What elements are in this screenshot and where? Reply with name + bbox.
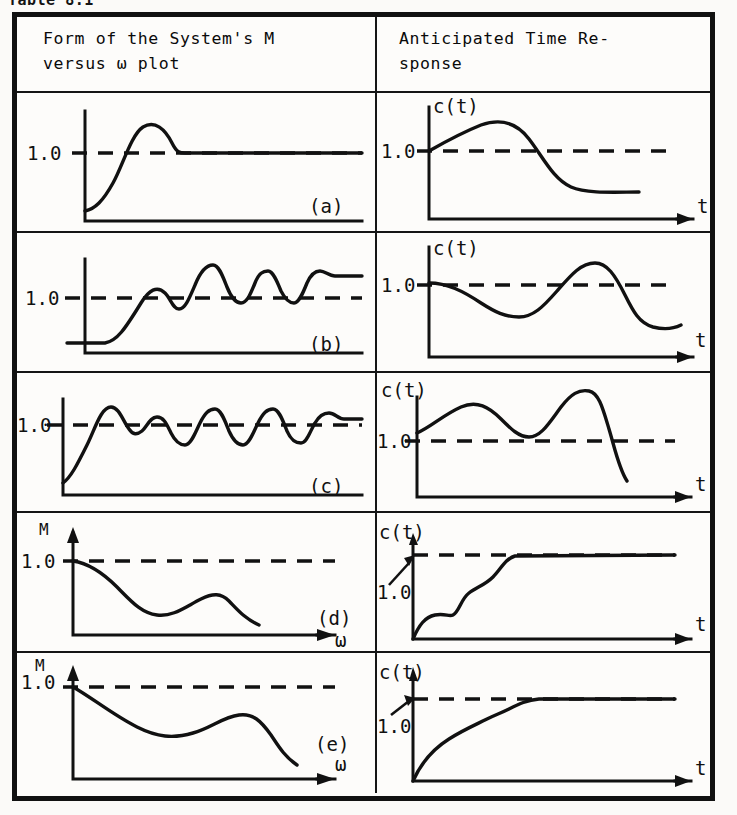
axis-label-a-left-y: 1.0 — [27, 142, 61, 164]
table-row: M 1.0 ω (d) c(t) — [17, 513, 710, 653]
table-row: 1.0 (c) c(t) 1.0 t — [17, 373, 710, 513]
curve-a-right — [429, 122, 639, 192]
axes-d-right — [409, 533, 691, 645]
axis-label-b-right-x: t — [695, 329, 706, 351]
curve-c-right — [417, 391, 627, 481]
plot-cell-m-b: 1.0 (b) — [17, 233, 377, 371]
plot-cell-c-e: c(t) 1.0 t — [377, 653, 710, 793]
arrowhead-m-e — [67, 665, 79, 681]
axis-label-b-right-y: 1.0 — [381, 274, 415, 296]
curve-c-left — [63, 407, 362, 483]
arrowhead-t-b — [677, 351, 693, 363]
table-row: 1.0 (b) c(t) 1.0 t — [17, 233, 710, 373]
axis-name-b-right: c(t) — [433, 237, 479, 259]
plot-cell-c-c: c(t) 1.0 t — [377, 373, 710, 511]
curve-b-right — [429, 263, 681, 329]
header-cell-right: Anticipated Time Re- sponse — [377, 17, 710, 91]
curve-d-left — [73, 561, 259, 625]
row-tag-a: (a) — [309, 195, 343, 217]
figure-table: Form of the System's M versus ω plot Ant… — [12, 12, 715, 801]
axis-label-d-left-x: ω — [335, 629, 346, 651]
axis-label-c-left-y: 1.0 — [17, 414, 51, 436]
axes-e-right — [409, 667, 691, 787]
arrowhead-t-c — [675, 491, 691, 503]
axes-d-left — [67, 527, 335, 641]
row-tag-b: (b) — [309, 333, 343, 355]
table-header-row: Form of the System's M versus ω plot Ant… — [17, 17, 710, 93]
axis-label-d-left-y: 1.0 — [21, 550, 55, 572]
plot-cell-c-a: c(t) 1.0 t — [377, 93, 710, 231]
axes-b-right — [429, 247, 693, 363]
plot-cell-c-b: c(t) 1.0 t — [377, 233, 710, 371]
header-left-text: Form of the System's M versus ω plot — [17, 17, 375, 76]
plot-cell-m-d: M 1.0 ω (d) — [17, 513, 377, 651]
axes-c-right — [417, 397, 691, 503]
axes-e-left — [67, 665, 335, 785]
arrowhead-m-d — [67, 527, 79, 543]
header-right-text: Anticipated Time Re- sponse — [377, 17, 710, 76]
axis-label-d-right-y: 1.0 — [377, 581, 411, 603]
arrowhead-t-d — [675, 633, 691, 645]
axis-label-e-right-y: 1.0 — [377, 715, 411, 737]
axis-label-c-right-y: 1.0 — [377, 430, 411, 452]
axis-label-a-right-y: 1.0 — [381, 140, 415, 162]
axes-a-right — [429, 107, 693, 225]
axis-label-b-left-y: 1.0 — [25, 287, 59, 309]
arrowhead-omega-d — [317, 629, 335, 641]
header-cell-left: Form of the System's M versus ω plot — [17, 17, 377, 91]
axis-name-d-left: M — [39, 520, 49, 539]
row-tag-e: (e) — [315, 733, 349, 755]
table-caption: Table 8.1 — [8, 0, 94, 5]
plot-cell-m-c: 1.0 (c) — [17, 373, 377, 511]
table-row: M 1.0 ω (e) c(t) — [17, 653, 710, 793]
table-row: 1.0 (a) c(t) 1.0 t — [17, 93, 710, 233]
axis-name-d-right: c(t) — [379, 521, 425, 543]
row-tag-c: (c) — [309, 475, 343, 497]
arrowhead-t-a — [677, 213, 693, 225]
curve-e-right — [413, 699, 675, 781]
pointer-arrow-e — [391, 695, 415, 715]
axis-label-c-right-x: t — [695, 473, 706, 495]
axis-name-a-right: c(t) — [433, 95, 479, 117]
axis-name-c-right: c(t) — [381, 379, 427, 401]
plot-cell-m-a: 1.0 (a) — [17, 93, 377, 231]
axis-label-e-left-x: ω — [335, 753, 346, 775]
curve-e-left — [73, 687, 297, 765]
plot-cell-m-e: M 1.0 ω (e) — [17, 653, 377, 793]
axis-label-a-right-x: t — [697, 195, 708, 217]
axis-name-e-right: c(t) — [379, 661, 425, 683]
curve-b-left — [67, 265, 362, 343]
row-tag-d: (d) — [317, 607, 351, 629]
axis-label-d-right-x: t — [695, 613, 706, 635]
axis-label-e-left-y: 1.0 — [21, 671, 55, 693]
plot-cell-c-d: c(t) 1.0 t — [377, 513, 710, 651]
arrowhead-omega-e — [317, 773, 335, 785]
curve-d-right — [413, 555, 675, 639]
arrowhead-t-e — [675, 775, 691, 787]
axis-label-e-right-x: t — [695, 757, 706, 779]
